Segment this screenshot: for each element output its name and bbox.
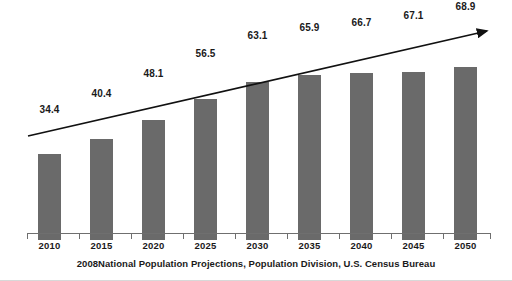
value-label-2050: 68.9 xyxy=(438,1,493,12)
x-tick-label-2040: 2040 xyxy=(334,240,389,251)
value-label-2020: 48.1 xyxy=(126,68,181,79)
value-label-2010: 34.4 xyxy=(22,104,77,115)
bar-2045 xyxy=(402,72,425,240)
axis-tick xyxy=(339,233,340,239)
x-tick-label-2010: 2010 xyxy=(22,240,77,251)
bar-2030 xyxy=(246,82,269,240)
bar-2035 xyxy=(298,75,321,240)
x-tick-label-2035: 2035 xyxy=(282,240,337,251)
axis-tick xyxy=(79,233,80,239)
x-axis-line xyxy=(27,233,491,234)
bar-2025 xyxy=(194,99,217,240)
x-tick-label-2050: 2050 xyxy=(438,240,493,251)
axis-tick xyxy=(490,233,491,239)
bar-2010 xyxy=(38,154,61,240)
value-label-2030: 63.1 xyxy=(230,30,285,41)
x-tick-label-2030: 2030 xyxy=(230,240,285,251)
chart-caption: 2008National Population Projections, Pop… xyxy=(0,258,512,269)
value-label-2045: 67.1 xyxy=(386,10,441,21)
x-tick-label-2020: 2020 xyxy=(126,240,181,251)
value-label-2025: 56.5 xyxy=(178,48,233,59)
plot-area: 34.4 40.4 48.1 56.5 63.1 65.9 66.7 67.1 … xyxy=(0,0,512,240)
axis-tick xyxy=(287,233,288,239)
x-tick-label-2015: 2015 xyxy=(74,240,129,251)
value-label-2015: 40.4 xyxy=(74,88,129,99)
bar-2040 xyxy=(350,73,373,240)
axis-tick xyxy=(183,233,184,239)
x-tick-label-2045: 2045 xyxy=(386,240,441,251)
bar-2050 xyxy=(454,67,477,240)
bar-chart-figure: 34.4 40.4 48.1 56.5 63.1 65.9 66.7 67.1 … xyxy=(0,0,512,281)
value-label-2040: 66.7 xyxy=(334,17,389,28)
x-tick-label-2025: 2025 xyxy=(178,240,233,251)
axis-tick xyxy=(235,233,236,239)
axis-tick xyxy=(27,233,28,239)
axis-tick xyxy=(443,233,444,239)
value-label-2035: 65.9 xyxy=(282,22,337,33)
bar-2020 xyxy=(142,120,165,240)
bar-2015 xyxy=(90,139,113,240)
axis-tick xyxy=(131,233,132,239)
axis-tick xyxy=(391,233,392,239)
